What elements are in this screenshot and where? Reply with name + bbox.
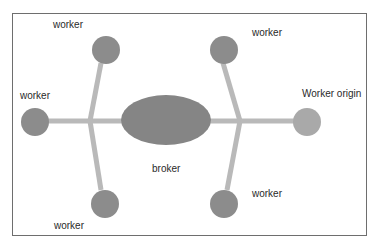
connector-top-left (90, 63, 101, 121)
worker-node-left (21, 108, 49, 136)
connector-bottom-right (227, 121, 240, 190)
connector-bottom-left (90, 121, 101, 190)
worker-node-top-right (210, 36, 238, 64)
label-worker-bottom-left: worker (54, 220, 84, 231)
worker-node-top-left (92, 36, 120, 64)
label-broker: broker (152, 163, 180, 174)
broker-node (121, 95, 211, 145)
worker-origin-node (293, 108, 321, 136)
connector-top-right (223, 63, 240, 121)
worker-node-bottom-left (91, 190, 119, 218)
label-worker-origin: Worker origin (302, 88, 361, 99)
label-worker-left: worker (20, 90, 50, 101)
diagram-canvas (0, 0, 376, 248)
label-worker-bottom-right: worker (252, 188, 282, 199)
worker-node-bottom-right (210, 190, 238, 218)
label-worker-top-left: worker (53, 19, 83, 30)
label-worker-top-right: worker (252, 27, 282, 38)
